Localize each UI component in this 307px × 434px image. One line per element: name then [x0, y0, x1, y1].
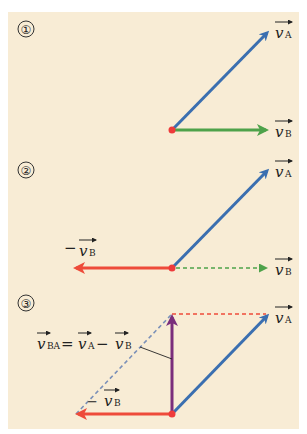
svg-text:②: ② — [21, 164, 32, 178]
svg-text:B: B — [89, 248, 96, 258]
svg-text:v: v — [79, 242, 88, 260]
svg-text:v: v — [115, 335, 124, 353]
origin-dot — [169, 127, 176, 134]
svg-text:A: A — [284, 169, 292, 179]
svg-text:v: v — [37, 335, 46, 353]
svg-text:−: − — [64, 239, 77, 257]
svg-text:A: A — [87, 341, 95, 351]
svg-text:v: v — [275, 123, 284, 141]
svg-text:v: v — [275, 309, 284, 327]
svg-text:B: B — [114, 398, 121, 408]
svg-text:−: − — [96, 335, 109, 353]
svg-text:v: v — [275, 261, 284, 279]
svg-text:B: B — [125, 341, 132, 351]
svg-text:v: v — [78, 335, 87, 353]
svg-text:③: ③ — [21, 297, 32, 311]
origin-dot — [169, 265, 176, 272]
svg-text:v: v — [275, 163, 284, 181]
svg-text:B: B — [285, 129, 292, 139]
svg-text:−: − — [87, 394, 98, 409]
figure-background — [8, 12, 299, 429]
svg-text:v: v — [104, 392, 113, 410]
origin-dot — [169, 411, 176, 418]
relative-velocity-diagram: ① v A v B ② v A v — [0, 0, 307, 434]
svg-text:A: A — [284, 30, 292, 40]
svg-text:①: ① — [21, 23, 32, 37]
svg-text:BA: BA — [47, 341, 61, 351]
svg-text:v: v — [275, 24, 284, 42]
svg-text:B: B — [285, 267, 292, 277]
svg-text:A: A — [284, 315, 292, 325]
svg-text:=: = — [61, 335, 74, 353]
